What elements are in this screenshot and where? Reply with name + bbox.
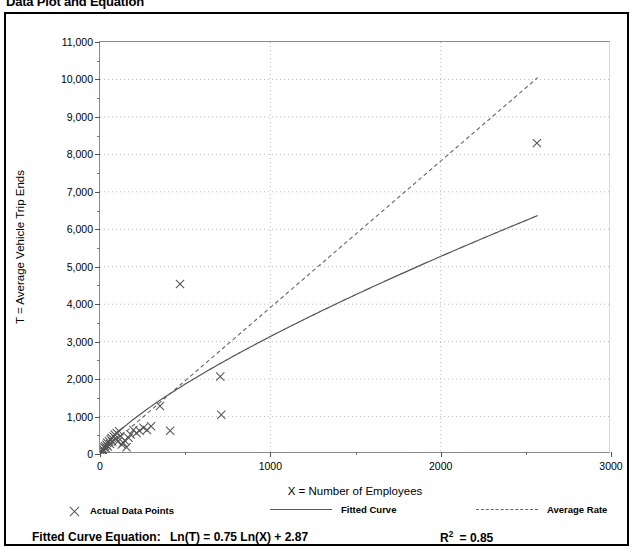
- x-tick-label: 1000: [259, 461, 282, 472]
- y-axis-label: T = Average Vehicle Trip Ends: [14, 170, 26, 324]
- r-squared-value: = 0.85: [460, 531, 494, 545]
- r-squared-exponent: 2: [449, 530, 454, 539]
- y-tick-mark: [95, 192, 100, 193]
- y-minor-tick: [97, 248, 100, 249]
- r-squared: R2 = 0.85: [440, 530, 493, 545]
- y-tick-label: 8,000: [67, 149, 93, 160]
- y-tick-mark: [95, 417, 100, 418]
- legend-item-average-rate: Average Rate: [476, 504, 607, 515]
- x-minor-tick: [356, 452, 357, 455]
- y-minor-tick: [97, 398, 100, 399]
- x-tick-mark: [611, 452, 612, 457]
- y-tick-label: 11,000: [62, 37, 93, 48]
- fitted-curve-equation: Fitted Curve Equation: Ln(T) = 0.75 Ln(X…: [32, 530, 308, 544]
- y-tick-mark: [95, 79, 100, 80]
- x-axis-label: X = Number of Employees: [288, 485, 423, 497]
- y-tick-label: 9,000: [67, 112, 93, 123]
- x-tick-mark: [100, 452, 101, 457]
- y-tick-label: 10,000: [61, 74, 93, 85]
- x-tick-mark: [270, 452, 271, 457]
- y-tick-label: 4,000: [67, 299, 93, 310]
- legend-label: Average Rate: [547, 504, 607, 515]
- plot-area: 01,0002,0003,0004,0005,0006,0007,0008,00…: [99, 41, 610, 453]
- equation-label: Fitted Curve Equation:: [32, 530, 161, 544]
- y-minor-tick: [97, 136, 100, 137]
- y-tick-label: 1,000: [67, 411, 93, 422]
- x-tick-label: 0: [97, 461, 103, 472]
- x-minor-tick: [185, 452, 186, 455]
- y-minor-tick: [97, 211, 100, 212]
- y-minor-tick: [97, 61, 100, 62]
- y-tick-label: 6,000: [67, 224, 93, 235]
- chart-legend: Actual Data Points Fitted Curve Average …: [6, 500, 627, 524]
- y-tick-mark: [95, 117, 100, 118]
- y-tick-label: 5,000: [67, 261, 93, 272]
- y-tick-mark: [95, 229, 100, 230]
- y-tick-label: 0: [87, 449, 93, 460]
- x-tick-mark: [441, 452, 442, 457]
- y-tick-label: 7,000: [67, 187, 93, 198]
- x-tick-label: 2000: [429, 461, 452, 472]
- equation-row: Fitted Curve Equation: Ln(T) = 0.75 Ln(X…: [6, 530, 627, 552]
- y-minor-tick: [97, 323, 100, 324]
- y-minor-tick: [97, 285, 100, 286]
- y-tick-mark: [95, 42, 100, 43]
- page-title: Data Plot and Equation: [6, 0, 144, 9]
- plot-canvas: [100, 42, 611, 454]
- y-tick-mark: [95, 379, 100, 380]
- y-tick-mark: [95, 154, 100, 155]
- x-minor-tick: [526, 452, 527, 455]
- solid-line-icon: [270, 509, 332, 510]
- y-minor-tick: [97, 360, 100, 361]
- y-minor-tick: [97, 435, 100, 436]
- chart-frame: T = Average Vehicle Trip Ends 01,0002,00…: [4, 12, 629, 546]
- y-tick-label: 3,000: [67, 336, 93, 347]
- legend-label: Actual Data Points: [90, 505, 174, 516]
- legend-item-fitted-curve: Fitted Curve: [270, 504, 396, 515]
- legend-item-actual-data-points: Actual Data Points: [68, 504, 174, 517]
- y-tick-mark: [95, 267, 100, 268]
- x-tick-label: 3000: [599, 461, 622, 472]
- r-squared-label: R: [440, 531, 449, 545]
- equation-value: Ln(T) = 0.75 Ln(X) + 2.87: [170, 530, 308, 544]
- y-tick-mark: [95, 304, 100, 305]
- legend-label: Fitted Curve: [341, 504, 396, 515]
- x-marker-icon: [68, 504, 81, 517]
- chart-area: T = Average Vehicle Trip Ends 01,0002,00…: [6, 14, 627, 500]
- dashed-line-icon: [476, 509, 538, 510]
- y-minor-tick: [97, 98, 100, 99]
- y-minor-tick: [97, 173, 100, 174]
- y-tick-mark: [95, 342, 100, 343]
- y-tick-label: 2,000: [67, 374, 93, 385]
